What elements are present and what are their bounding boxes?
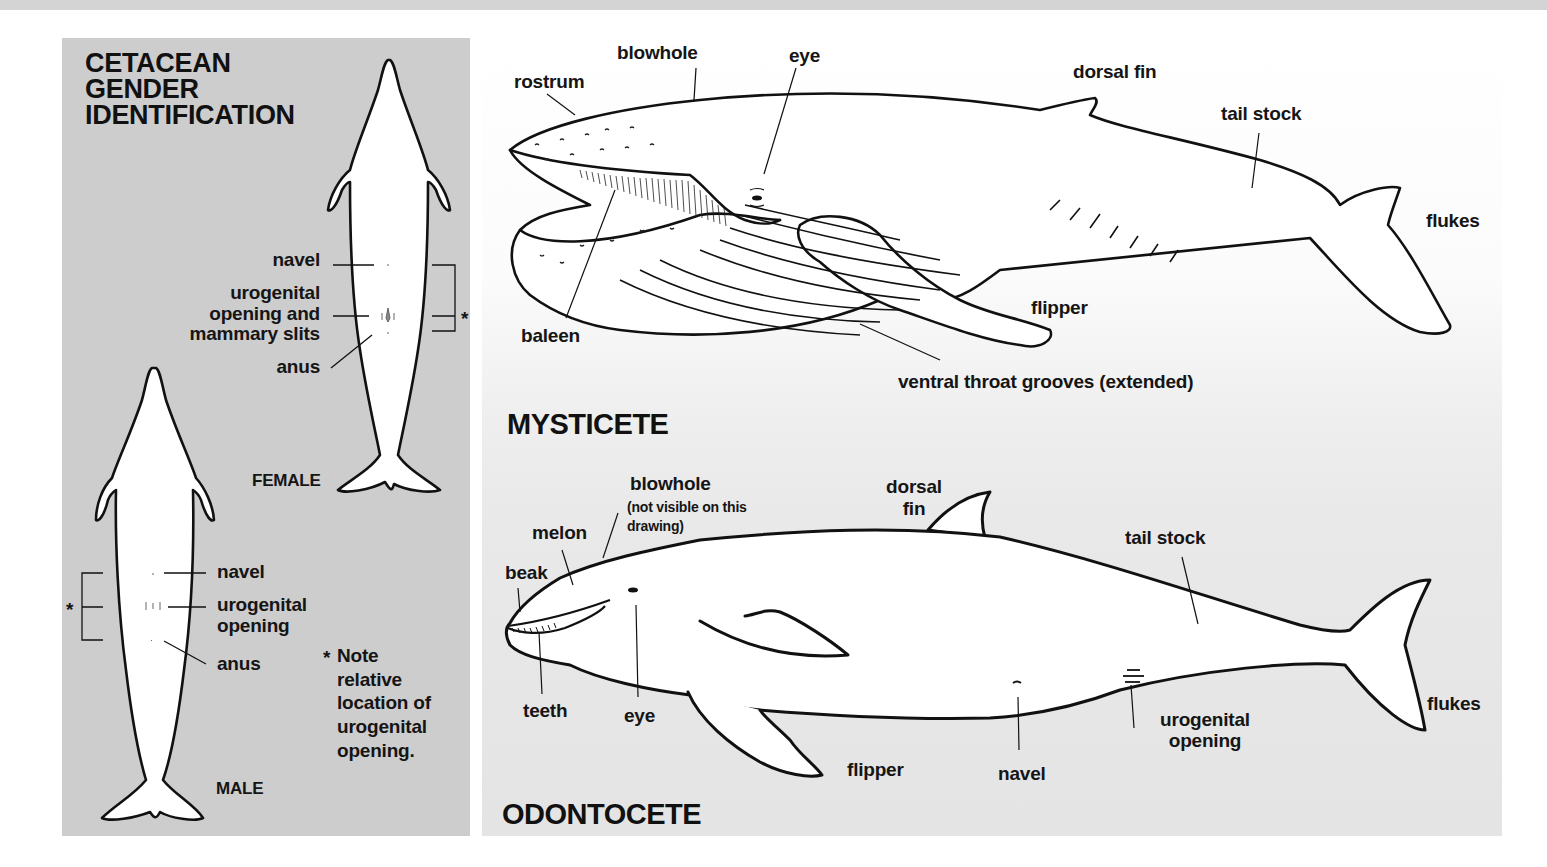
mysticete-label-blowhole: blowhole <box>617 43 698 63</box>
mysticete-label-flukes: flukes <box>1426 211 1480 231</box>
odontocete-label-dorsal-line2: fin <box>884 499 944 519</box>
mysticete-title: MYSTICETE <box>507 409 668 439</box>
mysticete-label-tail-stock: tail stock <box>1221 104 1301 124</box>
odontocete-label-flipper: flipper <box>847 760 904 780</box>
odontocete-dolphin-illustration <box>506 492 1430 776</box>
whale-illustrations <box>0 0 1547 867</box>
odontocete-label-urogenital-line2: opening <box>1150 731 1260 751</box>
odontocete-eye-icon <box>628 588 638 593</box>
odontocete-label-tail-stock: tail stock <box>1125 528 1205 548</box>
mysticete-label-flipper: flipper <box>1031 298 1088 318</box>
odontocete-label-dorsal-line1: dorsal <box>884 477 944 497</box>
mysticete-label-baleen: baleen <box>521 326 580 346</box>
mysticete-label-ventral-throat-grooves: ventral throat grooves (extended) <box>898 372 1193 392</box>
mysticete-label-eye: eye <box>789 46 820 66</box>
odontocete-label-melon: melon <box>532 523 587 543</box>
odontocete-label-blowhole-note-line2: drawing) <box>627 519 684 534</box>
odontocete-label-teeth: teeth <box>523 701 567 721</box>
odontocete-label-eye: eye <box>624 706 655 726</box>
mysticete-whale-illustration <box>510 94 1450 347</box>
mysticete-label-rostrum: rostrum <box>514 72 584 92</box>
odontocete-label-blowhole-note-line1: (not visible on this <box>627 500 747 515</box>
mysticete-label-dorsal-fin: dorsal fin <box>1073 62 1157 82</box>
odontocete-label-beak: beak <box>505 563 548 583</box>
odontocete-label-navel: navel <box>998 764 1046 784</box>
odontocete-label-flukes: flukes <box>1427 694 1481 714</box>
odontocete-label-urogenital-line1: urogenital <box>1150 710 1260 730</box>
odontocete-label-blowhole: blowhole <box>630 474 711 494</box>
odontocete-title: ODONTOCETE <box>502 799 701 829</box>
